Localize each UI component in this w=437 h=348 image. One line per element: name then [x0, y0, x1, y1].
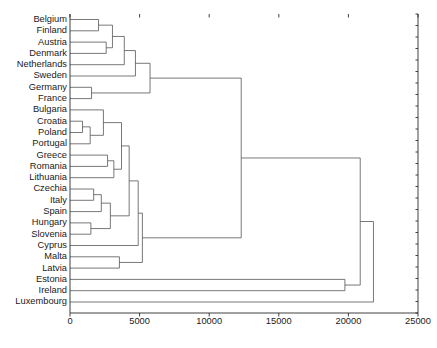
- dendrogram-link: [70, 189, 94, 200]
- leaf-label: Greece: [37, 150, 68, 160]
- dendrogram-link: [70, 121, 83, 132]
- leaf-label: Denmark: [29, 48, 67, 58]
- dendrogram-link: [142, 78, 241, 238]
- leaf-label: Slovenia: [31, 229, 67, 239]
- leaf-label: Sweden: [33, 70, 67, 80]
- leaf-label: Belgium: [33, 14, 67, 24]
- x-axis: [70, 14, 418, 317]
- leaf-label: Italy: [50, 195, 67, 205]
- dendrogram-links: [70, 20, 373, 303]
- dendrogram-link: [70, 257, 119, 268]
- leaf-label: Spain: [43, 206, 67, 216]
- dendrogram-link: [70, 87, 92, 98]
- dendrogram-link: [70, 181, 138, 246]
- dendrogram-link: [70, 36, 124, 64]
- x-axis-tick-label: 20000: [335, 316, 361, 326]
- dendrogram-link: [99, 25, 113, 48]
- leaf-label: Malta: [44, 251, 68, 261]
- leaf-label: Austria: [38, 37, 68, 47]
- dendrogram-figure: BelgiumFinlandAustriaDenmarkNetherlandsS…: [0, 0, 437, 348]
- leaf-label: Netherlands: [17, 59, 67, 69]
- dendrogram-link: [103, 123, 121, 170]
- dendrogram-link: [70, 51, 135, 76]
- leaf-label: Estonia: [36, 274, 68, 284]
- leaf-label: France: [38, 93, 67, 103]
- dendrogram-link: [70, 155, 108, 166]
- dendrogram-link: [241, 158, 360, 285]
- leaf-label: Lithuania: [29, 172, 68, 182]
- dendrogram-link: [92, 63, 150, 93]
- leaf-label: Portugal: [32, 138, 67, 148]
- leaf-label: Luxembourg: [15, 296, 67, 306]
- leaf-label: Ireland: [39, 285, 67, 295]
- leaf-label: Croatia: [37, 116, 68, 126]
- leaf-label: Cyprus: [38, 240, 68, 250]
- x-axis-tick-label: 10000: [196, 316, 222, 326]
- axis-spines: [70, 14, 418, 313]
- x-axis-tick-label: 0: [67, 316, 72, 326]
- leaf-label: Germany: [29, 82, 68, 92]
- x-axis-tick-labels: 0500010000150002000025000: [67, 316, 431, 326]
- dendrogram-link: [110, 146, 129, 216]
- dendrogram-plot: BelgiumFinlandAustriaDenmarkNetherlandsS…: [0, 0, 437, 348]
- dendrogram-leaf-labels: BelgiumFinlandAustriaDenmarkNetherlandsS…: [15, 14, 68, 307]
- leaf-label: Poland: [38, 127, 67, 137]
- leaf-label: Romania: [30, 161, 68, 171]
- x-axis-tick-label: 15000: [266, 316, 292, 326]
- leaf-label: Czechia: [33, 183, 67, 193]
- dendrogram-link: [70, 223, 91, 234]
- dendrogram-link: [70, 222, 373, 302]
- dendrogram-link: [70, 195, 101, 212]
- leaf-label: Hungary: [32, 217, 67, 227]
- leaf-label: Bulgaria: [33, 104, 68, 114]
- leaf-label: Finland: [37, 25, 68, 35]
- dendrogram-link: [70, 279, 345, 290]
- x-axis-tick-label: 25000: [405, 316, 431, 326]
- dendrogram-link: [70, 110, 103, 135]
- dendrogram-link: [70, 42, 106, 53]
- leaf-label: Latvia: [42, 263, 68, 273]
- dendrogram-link: [119, 213, 142, 262]
- x-axis-tick-label: 5000: [129, 316, 150, 326]
- dendrogram-link: [91, 203, 110, 228]
- dendrogram-link: [70, 20, 99, 31]
- dendrogram-link: [70, 127, 90, 144]
